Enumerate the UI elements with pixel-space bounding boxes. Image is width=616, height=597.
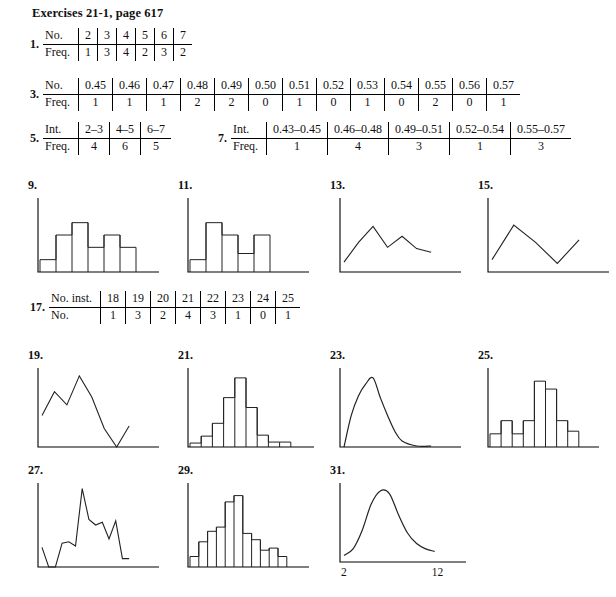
table-cell: 3 xyxy=(126,307,151,323)
table-cell: 0 xyxy=(251,307,276,323)
table-cell: 2 xyxy=(151,307,176,323)
figure-13: 13. xyxy=(330,178,475,284)
chart-axes xyxy=(340,198,461,272)
chart-axes xyxy=(488,368,599,447)
row-label: Freq. xyxy=(43,138,79,154)
row-label: Int. xyxy=(43,122,79,138)
table-cell: 0.49 xyxy=(215,78,249,94)
table-cell: 4 xyxy=(117,44,136,60)
table-cell: 0.47 xyxy=(147,78,181,94)
exercise-number: 3. xyxy=(30,87,39,102)
table-cell: 25 xyxy=(276,291,301,307)
chart-canvas: 212 xyxy=(330,477,480,582)
table-cell: 0.54 xyxy=(385,78,419,94)
table-cell: 0.52 xyxy=(317,78,351,94)
table-cell: 2 xyxy=(181,94,215,110)
chart-axes xyxy=(38,368,159,447)
figure-number: 31. xyxy=(330,463,345,478)
table-cell: 4 xyxy=(79,138,110,154)
chart-axes xyxy=(340,368,461,447)
table-cell: 1 xyxy=(487,94,521,110)
chart-canvas xyxy=(330,192,475,282)
figure-23: 23. xyxy=(330,348,475,459)
row-label: Int. xyxy=(231,122,267,138)
table-cell: 1 xyxy=(283,94,317,110)
frequency-polygon xyxy=(492,225,579,263)
chart-canvas xyxy=(478,192,616,282)
table-cell: 0.46–0.48 xyxy=(328,122,389,138)
page-title: Exercises 21-1, page 617 xyxy=(32,6,163,21)
figure-19: 19. xyxy=(28,348,173,459)
frequency-polygon xyxy=(344,226,431,262)
table-cell: 4 xyxy=(117,28,136,44)
table-row: No.234567 xyxy=(43,28,192,44)
row-label: Freq. xyxy=(43,44,79,60)
table-row: No. inst.1819202122232425 xyxy=(49,291,300,307)
table-cell: 24 xyxy=(251,291,276,307)
exercise-group-3: 3.No.0.450.460.470.480.490.500.510.520.5… xyxy=(30,78,520,111)
table-cell: 0.51 xyxy=(283,78,317,94)
row-label: Freq. xyxy=(231,138,267,154)
figure-number: 23. xyxy=(330,348,345,363)
figure-number: 25. xyxy=(478,348,493,363)
worksheet-page: Exercises 21-1, page 617 1.No.234567Freq… xyxy=(0,0,616,597)
figure-15: 15. xyxy=(478,178,616,284)
exercise-number: 1. xyxy=(30,37,39,52)
x-tick-label: 2 xyxy=(341,566,347,578)
table-cell: 5 xyxy=(141,138,172,154)
figure-number: 27. xyxy=(28,463,43,478)
chart-canvas xyxy=(178,362,328,457)
histogram-outline xyxy=(190,378,291,447)
figure-number: 13. xyxy=(330,178,345,193)
chart-axes xyxy=(488,198,609,272)
table-cell: 3 xyxy=(98,44,117,60)
table-cell: 1 xyxy=(147,94,181,110)
table-cell: 2 xyxy=(174,44,193,60)
table-cell: 6 xyxy=(155,28,174,44)
frequency-table: No.0.450.460.470.480.490.500.510.520.530… xyxy=(43,78,520,111)
histogram-outline xyxy=(190,496,287,567)
table-cell: 0.45 xyxy=(79,78,113,94)
table-cell: 6 xyxy=(110,138,141,154)
table-cell: 0.50 xyxy=(249,78,283,94)
chart-canvas xyxy=(178,477,323,577)
figure-11: 11. xyxy=(178,178,323,284)
exercise-group-5: 5.Int.2–34–56–7Freq.465 xyxy=(30,122,171,155)
table-cell: 0.55–0.57 xyxy=(511,122,572,138)
table-cell: 5 xyxy=(136,28,155,44)
table-cell: 1 xyxy=(79,44,98,60)
figure-number: 29. xyxy=(178,463,193,478)
table-row: Freq.14313 xyxy=(231,138,571,154)
table-cell: 3 xyxy=(201,307,226,323)
table-cell: 0.52–0.54 xyxy=(450,122,511,138)
table-cell: 6–7 xyxy=(141,122,172,138)
chart-canvas xyxy=(478,362,613,457)
table-cell: 7 xyxy=(174,28,193,44)
chart-axes xyxy=(340,483,466,562)
table-cell: 22 xyxy=(201,291,226,307)
table-cell: 3 xyxy=(511,138,572,154)
table-cell: 2 xyxy=(136,44,155,60)
table-cell: 2–3 xyxy=(79,122,110,138)
table-cell: 1 xyxy=(79,94,113,110)
table-row: No.13243101 xyxy=(49,307,300,323)
chart-axes xyxy=(38,483,159,567)
frequency-polygon xyxy=(42,489,129,567)
row-label: Freq. xyxy=(43,94,79,110)
exercise-number: 17. xyxy=(30,300,45,315)
table-cell: 0.56 xyxy=(453,78,487,94)
figure-21: 21. xyxy=(178,348,328,459)
table-cell: 0 xyxy=(385,94,419,110)
figure-29: 29. xyxy=(178,463,323,579)
chart-canvas xyxy=(178,192,323,282)
row-label: No. xyxy=(43,78,79,94)
table-cell: 18 xyxy=(101,291,126,307)
frequency-table: Int.2–34–56–7Freq.465 xyxy=(43,122,171,155)
table-cell: 0.55 xyxy=(419,78,453,94)
figure-31: 31.212 xyxy=(330,463,480,584)
table-cell: 1 xyxy=(351,94,385,110)
figure-number: 19. xyxy=(28,348,43,363)
histogram-outline xyxy=(190,223,270,272)
figure-number: 15. xyxy=(478,178,493,193)
figure-number: 9. xyxy=(28,178,37,193)
